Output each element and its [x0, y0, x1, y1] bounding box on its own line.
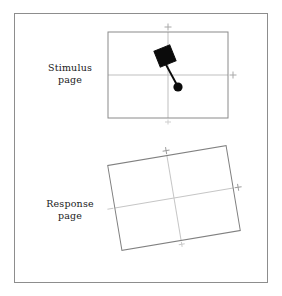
stimulus-label-line2: page	[34, 74, 106, 86]
response-label-line2: page	[32, 210, 108, 222]
figure-canvas: Stimulus page Response page	[0, 0, 282, 296]
figure-frame	[14, 13, 268, 283]
response-label-line1: Response	[32, 198, 108, 210]
stimulus-label-line1: Stimulus	[34, 62, 106, 74]
response-page-label: Response page	[32, 198, 108, 222]
stimulus-page-label: Stimulus page	[34, 62, 106, 86]
